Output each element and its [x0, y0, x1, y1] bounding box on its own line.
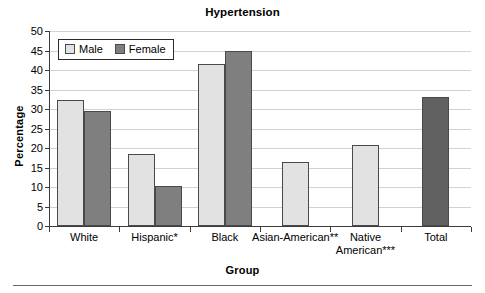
legend-swatch-male-icon	[65, 44, 75, 54]
gridline	[50, 90, 471, 91]
y-tick-mark	[45, 148, 50, 149]
y-tick-mark	[45, 109, 50, 110]
y-tick-mark	[45, 31, 50, 32]
bar-asianamerican-male	[282, 162, 309, 226]
plot-area: 05101520253035404550	[49, 31, 471, 227]
y-tick-mark	[45, 51, 50, 52]
gridline	[50, 70, 471, 71]
bar-black-male	[198, 64, 225, 226]
y-tick-label: 30	[31, 104, 43, 115]
gridline	[50, 129, 471, 130]
x-tick-label-line: Total	[366, 231, 485, 244]
y-tick-mark	[45, 90, 50, 91]
y-axis-label: Percentage	[13, 76, 25, 196]
y-tick-label: 5	[37, 201, 43, 212]
legend-item-female: Female	[115, 44, 166, 55]
bar-white-female	[84, 111, 111, 226]
footer-divider	[13, 285, 472, 286]
y-tick-label: 40	[31, 65, 43, 76]
gridline	[50, 148, 471, 149]
y-tick-mark	[45, 168, 50, 169]
y-tick-label: 45	[31, 45, 43, 56]
legend-label-female: Female	[129, 44, 166, 55]
y-tick-label: 50	[31, 26, 43, 37]
y-tick-label: 15	[31, 162, 43, 173]
x-axis-label: Group	[0, 264, 485, 276]
chart-title: Hypertension	[0, 6, 485, 18]
legend-item-male: Male	[65, 44, 103, 55]
y-tick-mark	[45, 187, 50, 188]
bar-hispanic-male	[128, 154, 155, 226]
y-tick-label: 25	[31, 123, 43, 134]
legend-swatch-female-icon	[115, 44, 125, 54]
y-tick-mark	[45, 207, 50, 208]
legend-label-male: Male	[79, 44, 103, 55]
y-tick-mark	[45, 70, 50, 71]
gridline	[50, 207, 471, 208]
bar-white-male	[57, 100, 84, 226]
gridline	[50, 31, 471, 32]
bar-total-total	[422, 97, 449, 226]
chart-figure: Hypertension Percentage 0510152025303540…	[0, 0, 485, 293]
y-tick-label: 20	[31, 143, 43, 154]
bar-black-female	[225, 51, 252, 226]
gridline	[50, 109, 471, 110]
bar-hispanic-female	[155, 186, 182, 226]
bar-nativeamerican-male	[352, 145, 379, 226]
x-tick-label: Total	[366, 231, 485, 244]
chart-legend: Male Female	[58, 39, 174, 60]
gridline	[50, 187, 471, 188]
gridline	[50, 168, 471, 169]
x-tick-label-line: American***	[296, 244, 436, 257]
y-tick-mark	[45, 129, 50, 130]
y-tick-label: 0	[37, 221, 43, 232]
y-tick-label: 10	[31, 182, 43, 193]
y-tick-label: 35	[31, 84, 43, 95]
